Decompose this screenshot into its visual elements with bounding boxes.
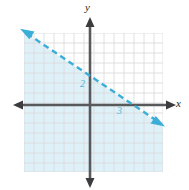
shaded-solution-region [24,33,163,173]
x-axis-label: x [176,98,181,109]
y-intercept-label: 2 [80,79,85,89]
coordinate-graph: y x 2 3 [0,0,189,190]
x-intercept-label: 3 [117,106,122,116]
y-axis-label: y [85,2,90,13]
graph-canvas [0,0,189,190]
